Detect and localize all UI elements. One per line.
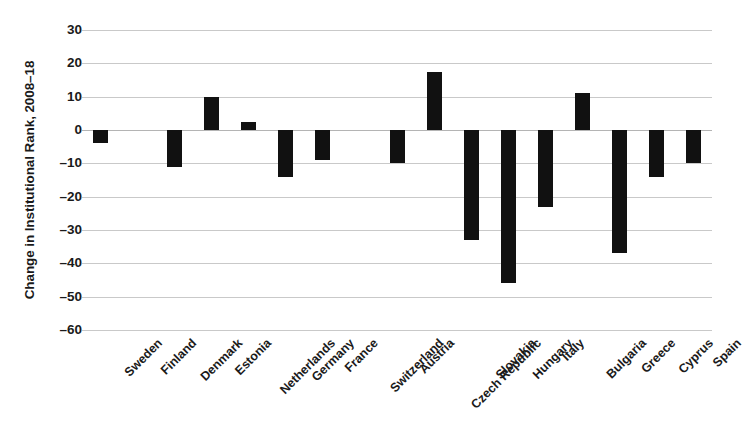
y-tick-label: –60 <box>38 323 82 337</box>
y-tick-label: 30 <box>38 23 82 37</box>
y-tick-label: –10 <box>38 157 82 171</box>
bar <box>686 130 701 163</box>
bar <box>538 130 553 207</box>
bar <box>427 72 442 130</box>
x-tick-label: Cyprus <box>676 336 716 376</box>
bar <box>241 122 256 130</box>
y-tick-label: 10 <box>38 90 82 104</box>
bar <box>315 130 330 160</box>
bar <box>167 130 182 167</box>
y-tick-label: –20 <box>38 190 82 204</box>
y-tick-label: 20 <box>38 57 82 71</box>
bar <box>93 130 108 143</box>
bar <box>612 130 627 253</box>
bar <box>390 130 405 163</box>
x-tick-label: Slovakia <box>493 336 539 382</box>
x-tick-label: Bulgaria <box>604 336 649 381</box>
x-tick-label: Denmark <box>197 336 245 384</box>
y-tick-label: –40 <box>38 257 82 271</box>
bar <box>575 93 590 130</box>
x-tick-label: Sweden <box>121 336 164 379</box>
x-axis-tick-labels: SwedenFinlandDenmarkEstoniaNetherlandsGe… <box>82 330 712 442</box>
bar <box>464 130 479 240</box>
bar <box>649 130 664 177</box>
bars-layer <box>82 30 712 330</box>
y-tick-label: –50 <box>38 290 82 304</box>
bar-chart: Change in Institutional Rank, 2008–18 30… <box>0 0 750 442</box>
y-axis-tick-labels: 3020100–10–20–30–40–50–60 <box>38 30 82 330</box>
y-tick-label: –30 <box>38 223 82 237</box>
bar <box>501 130 516 283</box>
x-tick-label: Finland <box>158 336 199 377</box>
x-tick-label: Spain <box>710 336 744 370</box>
y-tick-label: 0 <box>38 123 82 137</box>
plot-area <box>82 30 712 330</box>
bar <box>204 97 219 130</box>
bar <box>278 130 293 177</box>
